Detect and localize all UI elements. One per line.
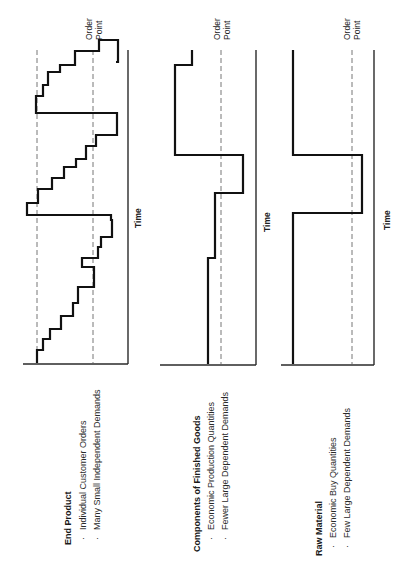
bullet-dot: · [92,537,102,540]
panel-title: Components of Finished Goods [192,416,202,553]
order-point-label-line1: Order [342,18,352,40]
inventory-level-line [27,40,118,363]
panel-title: End Product [63,491,73,545]
bullet-item: Economic Production Quantities [206,401,216,530]
order-point-label-line2: Point [222,20,232,40]
bullet-item: Fewer Large Dependent Demands [220,391,230,530]
bullet-dot: · [78,537,88,540]
bullet-item: Economic Buy Quantities [328,437,338,538]
bullet-dot: · [220,537,230,540]
panel-title: Raw Material [314,501,324,556]
time-axis-label: Time [382,210,392,230]
time-axis-label: Time [262,212,272,232]
bullet-item: Few Large Dependent Demands [342,407,352,538]
time-axis-label: Time [133,208,143,228]
order-point-label-line1: Order [84,18,94,40]
inventory-behavior-figure: Order Point Time End Product · Individua… [0,0,406,573]
bullet-dot: · [206,537,216,540]
inventory-level-line [175,50,243,364]
panel-raw-material: Order Point Time Raw Material · Economic… [281,18,392,556]
panel-components: Order Point Time Components of Finished … [160,18,272,552]
order-point-label-line2: Point [94,20,104,40]
order-point-label-line2: Point [352,20,362,40]
bullet-dot: · [328,545,338,548]
panel-end-product: Order Point Time End Product · Individua… [23,18,143,545]
bullet-dot: · [342,545,352,548]
bullet-item: Many Small Independent Demands [92,389,102,530]
bullet-item: Individual Customer Orders [78,420,88,530]
order-point-label-line1: Order [212,18,222,40]
